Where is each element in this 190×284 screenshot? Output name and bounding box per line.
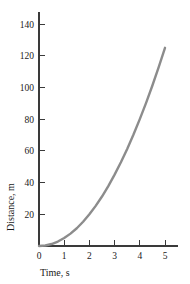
- distance-curve: [39, 48, 165, 246]
- y-tick-label-120: 120: [20, 51, 35, 61]
- x-axis-title: Time, s: [40, 267, 70, 278]
- y-tick-label-20: 20: [25, 210, 35, 220]
- y-tick-label-100: 100: [20, 83, 35, 93]
- x-tick-label-2: 2: [87, 251, 92, 261]
- y-tick-label-60: 60: [25, 146, 35, 156]
- y-tick-label-40: 40: [25, 178, 35, 188]
- y-axis-title: Distance, m: [5, 183, 16, 231]
- x-tick-label-0: 0: [37, 251, 42, 261]
- x-tick-label-3: 3: [112, 251, 117, 261]
- x-tick-label-4: 4: [137, 251, 142, 261]
- distance-time-chart: 140 120 100 80 60 40 20 0 1 2 3 4 5 Time…: [0, 0, 190, 284]
- y-axis-tick-labels: 140 120 100 80 60 40 20: [20, 20, 35, 220]
- y-tick-label-140: 140: [20, 20, 35, 30]
- chart-canvas: 140 120 100 80 60 40 20 0 1 2 3 4 5 Time…: [0, 0, 190, 284]
- x-tick-label-1: 1: [62, 251, 67, 261]
- x-tick-label-5: 5: [163, 251, 168, 261]
- y-axis-ticks: [39, 24, 45, 214]
- y-tick-label-80: 80: [25, 115, 35, 125]
- x-axis-tick-labels: 0 1 2 3 4 5: [37, 251, 168, 261]
